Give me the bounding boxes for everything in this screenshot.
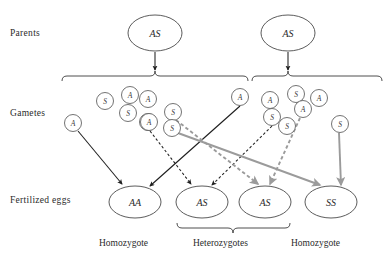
egg-aa-genotype: AA xyxy=(128,197,142,208)
egg-ss: SS xyxy=(305,186,357,218)
egg-as-1: AS xyxy=(176,186,228,218)
egg-aa: AA xyxy=(109,186,161,218)
egg-as-2: AS xyxy=(239,186,291,218)
fertilized-eggs-layer: AAASASSS xyxy=(0,0,388,260)
egg-as-1-genotype: AS xyxy=(195,197,207,208)
genetics-inheritance-diagram: Parents Gametes Fertilized eggs Homozygo… xyxy=(0,0,388,260)
egg-ss-genotype: SS xyxy=(326,197,336,208)
egg-as-2-genotype: AS xyxy=(258,197,270,208)
